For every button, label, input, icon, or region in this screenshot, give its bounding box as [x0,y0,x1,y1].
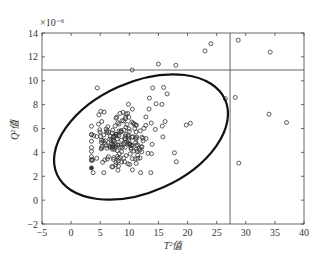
y-tick-label: 2 [33,171,38,182]
data-point [97,122,101,126]
data-point [160,102,164,106]
data-points [89,38,288,175]
data-point [128,152,132,156]
data-point [147,96,151,100]
x-tick-label: 5 [98,227,103,238]
data-point [149,121,153,125]
data-point [161,135,165,139]
data-point [124,154,128,158]
data-point [149,171,153,175]
data-point [142,126,146,130]
data-point [115,115,119,119]
data-point [163,120,167,124]
data-point [126,102,130,106]
data-point [151,86,155,90]
data-point [134,161,138,165]
data-point [89,166,93,170]
x-tick-label: 25 [212,227,222,238]
data-point [91,171,95,175]
y-tick-label: 8 [33,99,38,110]
y-tick-label: 12 [28,51,38,62]
y-tick-label: 10 [28,75,38,86]
data-point [111,128,115,132]
data-point [267,112,271,116]
x-axis-label: T²值 [164,240,185,251]
data-point [95,156,99,160]
data-point [89,139,93,143]
data-point [160,124,164,128]
data-point [209,42,213,46]
x-tick-label: −5 [37,227,48,238]
y-tick-label: 4 [33,147,38,158]
y-tick-label: 6 [33,123,38,134]
data-point [268,50,272,54]
scatter-chart: −50510152025303540−202468101214 T²值 Q²值 … [0,0,327,262]
data-point [188,121,192,125]
data-point [184,123,188,127]
data-point [139,171,143,175]
data-point [285,121,289,125]
axes: −50510152025303540−202468101214 [27,28,309,239]
x-tick-label: 30 [241,227,251,238]
x-tick-label: 0 [69,227,74,238]
y-tick-label: −2 [27,219,38,230]
x-tick-label: 15 [153,227,163,238]
data-point [130,107,134,111]
data-point [95,86,99,90]
x-tick-label: 40 [299,227,309,238]
data-point [102,171,106,175]
data-point [153,127,157,131]
data-point [203,49,207,53]
data-point [172,151,176,155]
x-tick-label: 20 [183,227,193,238]
y-tick-label: 0 [33,195,38,206]
y-scale-annotation: ×10⁻⁶ [40,17,65,28]
x-tick-label: 35 [270,227,280,238]
data-point [130,157,134,161]
data-point [144,115,148,119]
data-point [138,129,142,133]
data-point [150,142,154,146]
data-point [130,168,134,172]
data-point [236,38,240,42]
data-point [233,95,237,99]
x-tick-label: 10 [124,227,134,238]
data-point [89,124,93,128]
data-point [174,160,178,164]
data-point [237,161,241,165]
data-point [154,102,158,106]
data-point [174,63,178,67]
data-point [116,168,120,172]
data-point [162,85,166,89]
data-point [165,92,169,96]
data-point [156,62,160,66]
y-axis-label: Q²值 [9,118,20,140]
y-tick-label: 14 [28,28,38,39]
data-point [147,107,151,111]
